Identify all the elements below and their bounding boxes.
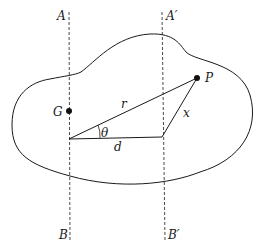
segment-d (69, 137, 162, 139)
label-b-prime: B′ (167, 228, 180, 242)
label-d: d (114, 140, 122, 154)
label-r: r (121, 97, 128, 111)
segment-r (69, 78, 197, 139)
label-a: A (56, 9, 66, 23)
label-b: B (58, 228, 68, 242)
axis-a-prime-b-prime (162, 12, 165, 240)
label-g: G (53, 105, 63, 119)
point-p-dot (194, 75, 200, 81)
label-a-prime: A′ (165, 9, 178, 23)
axis-ab (69, 12, 70, 240)
label-theta: θ (101, 126, 109, 140)
label-x: x (183, 106, 190, 120)
diagram-canvas: A A′ B B′ G P r d x θ (0, 0, 258, 245)
angle-theta-arc (98, 125, 100, 138)
point-g-dot (66, 108, 72, 114)
label-p: P (204, 71, 214, 85)
